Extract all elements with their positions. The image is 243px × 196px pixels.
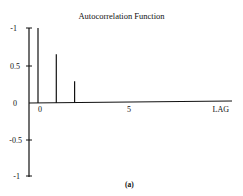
x-axis-label: LAG [213,105,230,114]
x-tick-label: 5 [127,105,131,114]
y-tick-label: 0.5 [10,62,20,71]
y-tick-label: 0 [13,99,17,108]
y-tick-label: -1 [13,172,20,181]
y-tick-label: -0.5 [9,136,22,145]
x-axis [29,101,232,103]
y-tick-label: -1 [10,24,17,33]
x-tick-label: 0 [38,105,42,114]
acf-plot: -1 0.5 0 -0.5 -1 0 5 LAG [0,0,243,196]
acf-bars [38,28,75,103]
figure-caption: (a) [125,180,134,189]
